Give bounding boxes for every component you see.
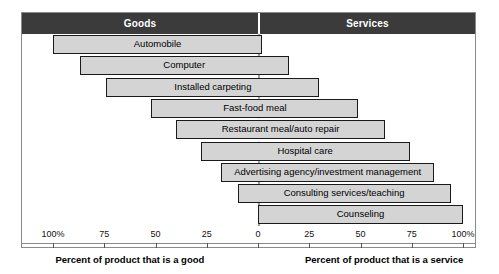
chart-frame: Goods Services AutomobileComputerInstall… <box>21 12 476 248</box>
axis-tick <box>412 243 413 248</box>
axis-tick-label: 100% <box>41 229 64 239</box>
goods-services-continuum-chart: Goods Services AutomobileComputerInstall… <box>0 0 499 274</box>
axis-tick <box>361 243 362 248</box>
axis-tick-label: 25 <box>202 229 212 239</box>
bar-label: Advertising agency/investment management <box>234 166 421 177</box>
bar-label: Computer <box>163 59 205 70</box>
axis-tick-label: 0 <box>255 229 260 239</box>
bar-consulting-services-teaching: Consulting services/teaching <box>238 184 451 203</box>
header-services-label: Services <box>260 13 475 34</box>
bar-counseling: Counseling <box>258 205 463 224</box>
axis-tick-label: 50 <box>150 229 160 239</box>
axis-tick <box>463 243 464 248</box>
axis-line <box>22 243 475 244</box>
bar-label: Hospital care <box>277 145 332 156</box>
header-band: Goods Services <box>22 13 475 34</box>
axis-tick-label: 100% <box>451 229 474 239</box>
bar-hospital-care: Hospital care <box>201 142 410 161</box>
bar-label: Counseling <box>337 208 385 219</box>
axis-tick-label: 25 <box>304 229 314 239</box>
axis-tick <box>258 243 259 248</box>
bar-restaurant-meal-auto-repair: Restaurant meal/auto repair <box>176 120 385 139</box>
header-goods-label: Goods <box>22 13 258 34</box>
bar-label: Fast-food meal <box>223 102 286 113</box>
caption-percent-service: Percent of product that is a service <box>305 254 463 265</box>
bar-label: Automobile <box>134 38 182 49</box>
bar-fast-food-meal: Fast-food meal <box>151 99 358 118</box>
axis-tick <box>207 243 208 248</box>
bar-computer: Computer <box>80 56 289 75</box>
bar-installed-carpeting: Installed carpeting <box>106 78 319 97</box>
axis-tick <box>53 243 54 248</box>
bar-advertising-agency-investment-management: Advertising agency/investment management <box>221 163 434 182</box>
bar-label: Restaurant meal/auto repair <box>222 123 340 134</box>
axis-tick <box>309 243 310 248</box>
axis-tick-label: 75 <box>99 229 109 239</box>
axis-tick-label: 50 <box>355 229 365 239</box>
caption-percent-good: Percent of product that is a good <box>55 254 204 265</box>
axis-tick-label: 75 <box>407 229 417 239</box>
plot-area: AutomobileComputerInstalled carpetingFas… <box>22 34 475 226</box>
bar-label: Installed carpeting <box>174 81 251 92</box>
bar-automobile: Automobile <box>53 35 262 54</box>
axis-tick <box>156 243 157 248</box>
axis-tick <box>104 243 105 248</box>
x-axis: 100%7550250255075100% <box>22 226 475 248</box>
bar-label: Consulting services/teaching <box>284 187 405 198</box>
